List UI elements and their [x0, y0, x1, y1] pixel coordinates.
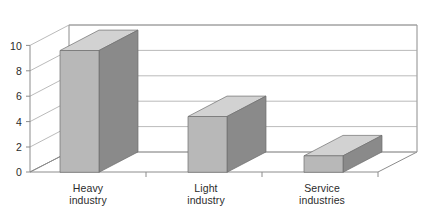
x-category-label-light-industry-line2: industry: [146, 194, 266, 206]
x-category-label-heavy-industry-line1: Heavy: [28, 182, 148, 194]
y-tick-label-0: 0: [0, 166, 22, 178]
y-axis-ticks: [26, 45, 30, 172]
y-tick-label-2: 2: [0, 141, 22, 153]
bar-light-industry: [188, 96, 266, 172]
bar-service-industries: [304, 135, 382, 172]
bar-front-face: [60, 51, 99, 173]
x-category-label-heavy-industry-line2: industry: [28, 194, 148, 206]
y-tick-label-8: 8: [0, 65, 22, 77]
bar-chart-figure: 10 8 6 4 2 0 Heavy industry Light indust…: [0, 0, 432, 219]
bar-front-face: [304, 156, 343, 173]
bar-front-face: [188, 117, 227, 173]
x-category-label-service-industries-line2: industries: [262, 194, 382, 206]
x-category-label-service-industries-line1: Service: [262, 182, 382, 194]
y-tick-label-4: 4: [0, 116, 22, 128]
x-category-label-light-industry-line1: Light: [146, 182, 266, 194]
depth-connector-10: [30, 25, 69, 45]
bar-heavy-industry: [60, 30, 138, 172]
y-tick-label-10: 10: [0, 40, 22, 52]
y-tick-label-6: 6: [0, 90, 22, 102]
x-axis-ticks: [146, 172, 378, 177]
bar-side-face: [99, 30, 138, 172]
y-axis: [26, 45, 30, 172]
